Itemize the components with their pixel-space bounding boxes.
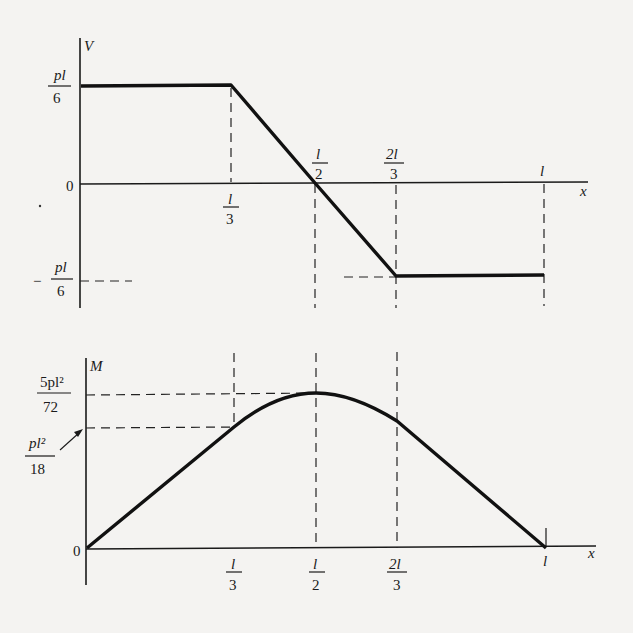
m-x-axis <box>86 546 596 549</box>
m-tick-mid: pl² 18 <box>25 429 83 477</box>
v-xtick-2l3: 2l 3 <box>384 146 404 182</box>
svg-text:3: 3 <box>393 577 401 593</box>
shear-diagram: V x 0 pl 6 − pl 6 l 3 l <box>33 38 588 308</box>
svg-text:−: − <box>33 273 41 289</box>
svg-text:3: 3 <box>229 577 237 593</box>
m-origin-label: 0 <box>73 543 81 559</box>
shear-curve <box>81 85 544 276</box>
svg-text:pl²: pl² <box>28 435 46 451</box>
svg-text:3: 3 <box>390 166 398 182</box>
svg-text:3: 3 <box>226 211 234 227</box>
svg-text:pl: pl <box>53 67 66 83</box>
svg-text:l: l <box>228 191 232 207</box>
v-xtick-l2: l 2 <box>312 146 328 182</box>
m-xtick-l3: l 3 <box>226 556 242 593</box>
m-xtick-2l3: 2l 3 <box>387 556 407 593</box>
m-xtick-l2: l 2 <box>309 556 325 593</box>
m-guide-max <box>86 393 316 395</box>
svg-text:72: 72 <box>43 399 58 415</box>
svg-text:6: 6 <box>53 90 61 106</box>
svg-text:2l: 2l <box>389 556 401 572</box>
moment-diagram: M x 0 5pl² 72 pl² 18 l 3 <box>25 352 596 593</box>
speck <box>39 205 41 207</box>
svg-text:2l: 2l <box>386 146 398 162</box>
v-tick-neg-pl6: − pl 6 <box>33 259 73 299</box>
v-xtick-l: l <box>540 163 544 179</box>
v-x-axis <box>80 182 588 184</box>
m-x-axis-label: x <box>587 545 595 561</box>
m-guide-mid <box>86 427 234 428</box>
svg-text:5pl²: 5pl² <box>40 374 64 390</box>
svg-text:l: l <box>313 556 317 572</box>
svg-text:2: 2 <box>312 577 320 593</box>
svg-text:pl: pl <box>54 259 67 275</box>
svg-text:l: l <box>316 146 320 162</box>
beam-diagrams: V x 0 pl 6 − pl 6 l 3 l <box>0 0 633 633</box>
v-xtick-l3: l 3 <box>223 191 239 227</box>
svg-text:l: l <box>231 556 235 572</box>
v-axis-label: V <box>84 38 95 54</box>
svg-text:6: 6 <box>57 283 65 299</box>
m-xtick-l: l <box>543 553 547 569</box>
v-origin-label: 0 <box>66 178 74 194</box>
m-axis-label: M <box>89 358 104 374</box>
svg-text:18: 18 <box>30 461 45 477</box>
m-tick-max: 5pl² 72 <box>37 374 71 415</box>
svg-text:2: 2 <box>315 166 323 182</box>
v-x-axis-label: x <box>579 183 587 199</box>
v-tick-pl6: pl 6 <box>48 67 71 106</box>
